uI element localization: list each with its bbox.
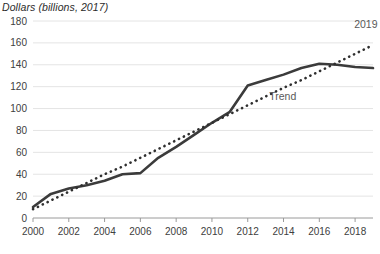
y-axis-tick-label: 20 bbox=[16, 191, 28, 202]
x-axis-tick-label: 2010 bbox=[201, 226, 224, 237]
x-axis-tick-label: 2014 bbox=[272, 226, 295, 237]
x-axis-tick-label: 2018 bbox=[344, 226, 367, 237]
chart-container: Dollars (billions, 2017) 020406080100120… bbox=[0, 0, 380, 254]
x-axis-tick-label: 2012 bbox=[237, 226, 260, 237]
y-axis-tick-label: 160 bbox=[10, 37, 27, 48]
series-layer bbox=[33, 45, 373, 209]
y-axis-tick-label: 60 bbox=[16, 147, 28, 158]
x-axis-tick-label: 2006 bbox=[129, 226, 152, 237]
x-axis-tick-label: 2004 bbox=[93, 226, 116, 237]
y-axis-tick-label: 0 bbox=[21, 213, 27, 224]
y-axis-tick-label: 140 bbox=[10, 59, 27, 70]
chart-annotation-label: 2019 bbox=[354, 18, 378, 30]
x-axis-tick-label: 2000 bbox=[22, 226, 45, 237]
x-axis-tick-label: 2002 bbox=[58, 226, 81, 237]
data-series-line bbox=[33, 64, 373, 207]
x-axis bbox=[33, 218, 373, 222]
y-axis-tick-label: 40 bbox=[16, 169, 28, 180]
chart-plot-area: 020406080100120140160180 200020022004200… bbox=[0, 0, 380, 254]
y-axis-tick-labels: 020406080100120140160180 bbox=[10, 16, 27, 224]
x-axis-tick-labels: 2000200220042006200820102012201420162018 bbox=[22, 226, 367, 237]
annotations-layer: Trend2019 bbox=[269, 18, 377, 102]
chart-annotation-label: Trend bbox=[269, 90, 296, 102]
x-axis-tick-label: 2016 bbox=[308, 226, 331, 237]
y-axis-tick-label: 100 bbox=[10, 103, 27, 114]
gridlines-group bbox=[33, 21, 373, 196]
y-axis-tick-label: 80 bbox=[16, 125, 28, 136]
y-axis-tick-label: 120 bbox=[10, 81, 27, 92]
x-axis-tick-label: 2008 bbox=[165, 226, 188, 237]
y-axis-tick-label: 180 bbox=[10, 16, 27, 27]
